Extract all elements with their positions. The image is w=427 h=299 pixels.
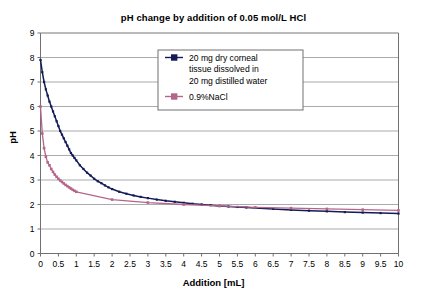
x-tick-label: 0 [38,259,43,269]
series-marker [56,120,58,122]
series-marker [111,198,114,201]
series-marker [111,188,113,190]
legend-label: 20 mg dry corneal [189,53,258,63]
series-marker [344,211,346,213]
series-marker [75,190,78,193]
series-marker [97,180,99,182]
x-tick-label: 0.5 [52,259,64,269]
series-marker [86,172,88,174]
series-marker [125,193,127,195]
series-marker [57,125,59,127]
legend-swatch-marker [171,54,177,60]
x-tick-label: 7.5 [303,259,315,269]
x-tick-label: 2 [110,259,115,269]
legend-label: tissue dissolved in [189,64,259,74]
series-marker [397,212,399,214]
legend-label: 0.9%NaCl [189,92,228,102]
series-marker [70,152,72,154]
series-marker [290,207,293,210]
y-tick-label: 2 [30,200,35,210]
series-marker [380,212,382,214]
series-marker [156,199,158,201]
series-marker [63,137,65,139]
series-marker [107,186,109,188]
x-tick-label: 5.5 [231,259,243,269]
series-marker [79,164,81,166]
series-marker [68,148,70,150]
x-axis-title: Addition [mL] [0,277,427,288]
series-marker [47,94,49,96]
chart-container: pH change by addition of 0.05 mol/L HCl … [0,0,427,299]
series-marker [43,147,46,150]
series-marker [132,194,134,196]
series-marker [72,154,74,156]
series-marker [45,155,48,158]
series-marker [100,182,102,184]
y-tick-label: 6 [30,102,35,112]
series-marker [45,88,47,90]
x-tick-label: 9.5 [375,259,387,269]
series-marker [50,105,52,107]
x-tick-label: 1 [74,259,79,269]
x-tick-label: 8.5 [339,259,351,269]
x-tick-label: 1.5 [88,259,100,269]
series-marker [104,184,106,186]
y-tick-label: 7 [30,77,35,87]
y-tick-label: 4 [30,151,35,161]
x-tick-label: 3.5 [160,259,172,269]
x-tick-label: 4 [181,259,186,269]
series-marker [52,110,54,112]
series-marker [90,174,92,176]
series-marker [48,101,50,103]
series-marker [52,171,55,174]
x-tick-label: 3 [146,259,151,269]
series-marker [140,196,142,198]
series-marker [39,105,42,108]
series-marker [50,168,53,171]
series-marker [46,161,49,164]
y-tick-label: 1 [30,224,35,234]
x-tick-label: 8 [325,259,330,269]
x-tick-label: 2.5 [124,259,136,269]
x-tick-labels: 00.511.522.533.544.555.566.577.588.599.5… [38,259,403,269]
series-marker [182,203,185,206]
series-marker [93,178,95,180]
series-line [41,107,399,211]
series-marker [362,211,364,213]
series-marker [326,210,328,212]
y-tick-label: 9 [30,28,35,38]
series-marker [147,201,150,204]
y-tick-label: 8 [30,53,35,63]
y-tick-label: 5 [30,126,35,136]
y-tick-label: 3 [30,175,35,185]
plot-area: 0123456789 00.511.522.533.544.555.566.57… [0,0,427,299]
x-tick-label: 6 [253,259,258,269]
series-marker [43,81,45,83]
legend-swatch-marker [171,93,177,99]
x-tick-label: 5 [217,259,222,269]
series-marker [326,208,329,211]
y-tick-labels: 0123456789 [30,28,35,259]
series-marker [147,197,149,199]
x-tick-label: 7 [289,259,294,269]
x-tick-label: 6.5 [267,259,279,269]
series-marker [61,134,63,136]
series-marker [73,157,75,159]
series-marker [41,132,44,135]
series-marker [39,59,41,61]
series-marker [66,145,68,147]
legend-label: 20 mg distilled water [189,76,267,86]
series-marker [308,210,310,212]
series-marker [254,206,257,209]
series-marker [48,164,51,167]
series-marker [59,130,61,132]
series-marker [82,168,84,170]
series-marker [174,201,176,203]
x-tick-label: 9 [360,259,365,269]
series-marker [165,200,167,202]
series-marker [118,191,120,193]
series-marker [41,71,43,73]
chart-legend: 20 mg dry cornealtissue dissolved in20 m… [158,50,303,110]
y-tick-label: 0 [30,249,35,259]
series-marker [397,209,400,212]
